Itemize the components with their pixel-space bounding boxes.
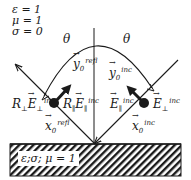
angle-arc [44,46,152,96]
upper-medium-properties: ε = 1 μ = 1 σ = 0 [12,4,43,37]
refl-e-perp-label: R⊥E⊥inc [12,98,55,110]
reflection-diagram: ε = 1 μ = 1 σ = 0 θ θ y0refl y0inc R⊥E⊥i… [0,0,191,180]
lower-medium-properties: ε;σ; μ = 1 [18,151,79,166]
inc-e-perp-dot [139,98,149,108]
refl-e-par-label: R∥E∥inc [63,98,99,110]
inc-e-perp-label: E⊥inc [153,98,180,110]
x-inc-label: x0inc [132,120,155,132]
sigma-value: σ = 0 [12,26,43,37]
y-inc-label: y0inc [109,67,132,79]
y-refl-label: y0refl [73,58,97,70]
inc-e-par-label: E∥inc [110,98,134,110]
x-refl-label: x0refl [45,120,69,132]
angle-theta-right: θ [123,33,130,45]
angle-theta-left: θ [63,33,70,45]
